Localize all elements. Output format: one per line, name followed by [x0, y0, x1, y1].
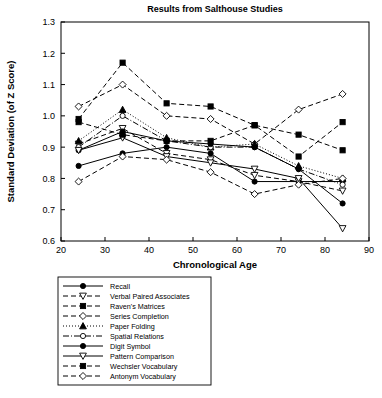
- x-tick-label: 50: [188, 245, 198, 255]
- marker-circle-open: [340, 182, 345, 187]
- chart-figure: Results from Salthouse Studies0.60.70.80…: [0, 0, 382, 398]
- legend-label: Spatial Relations: [110, 332, 164, 341]
- marker-diamond-open: [207, 115, 214, 122]
- x-tick-label: 70: [276, 245, 286, 255]
- marker-triangle-up-filled: [119, 106, 126, 112]
- marker-triangle-down-open: [339, 226, 346, 232]
- marker-circle-filled: [252, 179, 257, 184]
- marker-circle-open: [120, 113, 125, 118]
- legend-label: Paper Folding: [110, 322, 155, 331]
- y-tick-label: 0.6: [42, 236, 55, 246]
- marker-circle-filled: [208, 151, 213, 156]
- x-tick-label: 30: [100, 245, 110, 255]
- legend: RecallVerbal Paired AssociatesRaven's Ma…: [58, 277, 211, 385]
- marker-square-filled: [296, 154, 301, 159]
- marker-circle-filled: [252, 145, 257, 150]
- x-tick-label: 90: [364, 245, 374, 255]
- y-tick-label: 1.2: [42, 49, 55, 59]
- marker-circle-open: [80, 333, 85, 338]
- marker-square-filled: [296, 132, 301, 137]
- marker-triangle-up-filled: [75, 138, 82, 144]
- marker-circle-filled: [164, 145, 169, 150]
- series-line: [79, 85, 343, 144]
- series-group: [75, 60, 346, 232]
- y-tick-label: 0.7: [42, 205, 55, 215]
- marker-circle-filled: [80, 343, 85, 348]
- y-axis-label: Standard Deviation (of Z Score): [5, 61, 16, 203]
- legend-label: Antonym Vocabulary: [110, 372, 176, 381]
- marker-square-filled: [120, 132, 125, 137]
- legend-label: Series Completion: [110, 312, 169, 321]
- x-tick-label: 80: [320, 245, 330, 255]
- y-tick-label: 0.8: [42, 174, 55, 184]
- marker-circle-filled: [76, 163, 81, 168]
- y-tick-label: 0.9: [42, 143, 55, 153]
- marker-circle-filled: [340, 201, 345, 206]
- legend-label: Digit Symbol: [110, 342, 151, 351]
- marker-diamond-open: [207, 169, 214, 176]
- x-tick-label: 40: [144, 245, 154, 255]
- marker-square-filled: [340, 148, 345, 153]
- marker-square-filled: [208, 138, 213, 143]
- marker-triangle-down-open: [339, 188, 346, 194]
- y-tick-label: 1.3: [42, 17, 55, 27]
- marker-square-filled: [120, 60, 125, 65]
- marker-square-filled: [80, 363, 85, 368]
- marker-diamond-open: [339, 90, 346, 97]
- marker-diamond-open: [119, 81, 126, 88]
- legend-label: Raven's Matrices: [110, 302, 165, 311]
- marker-square-filled: [340, 120, 345, 125]
- chart-title: Results from Salthouse Studies: [147, 4, 283, 14]
- marker-diamond-open: [75, 103, 82, 110]
- marker-diamond-open: [251, 191, 258, 198]
- legend-label: Pattern Comparison: [110, 352, 174, 361]
- marker-square-filled: [252, 123, 257, 128]
- marker-square-filled: [80, 303, 85, 308]
- marker-diamond-open: [75, 178, 82, 185]
- salthouse-line-chart: Results from Salthouse Studies0.60.70.80…: [0, 0, 382, 398]
- marker-square-filled: [76, 120, 81, 125]
- legend-label: Recall: [110, 282, 130, 291]
- x-axis: 2030405060708090: [56, 237, 374, 255]
- legend-label: Wechsler Vocabulary: [110, 362, 178, 371]
- y-axis: 0.60.70.80.91.01.11.21.3: [42, 17, 65, 246]
- legend-label: Verbal Paired Associates: [110, 292, 190, 301]
- plot-frame: [61, 22, 369, 241]
- x-tick-label: 60: [232, 245, 242, 255]
- x-axis-label: Chronological Age: [173, 259, 257, 270]
- y-tick-label: 1.0: [42, 111, 55, 121]
- marker-square-filled: [208, 104, 213, 109]
- marker-square-filled: [164, 138, 169, 143]
- marker-circle-filled: [80, 283, 85, 288]
- x-tick-label: 20: [56, 245, 66, 255]
- marker-diamond-open: [163, 112, 170, 119]
- marker-square-filled: [164, 101, 169, 106]
- marker-circle-filled: [296, 166, 301, 171]
- y-tick-label: 1.1: [42, 80, 55, 90]
